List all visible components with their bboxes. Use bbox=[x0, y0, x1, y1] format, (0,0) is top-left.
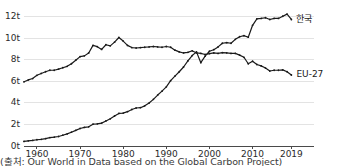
series-point bbox=[105, 120, 107, 122]
series-point bbox=[101, 122, 103, 124]
series-point bbox=[45, 71, 47, 73]
series-point bbox=[243, 35, 245, 37]
series-point bbox=[27, 140, 29, 142]
series-point bbox=[252, 24, 254, 26]
series-point bbox=[286, 13, 288, 15]
series-point bbox=[157, 46, 159, 48]
series-point bbox=[71, 63, 73, 65]
series-point bbox=[131, 109, 133, 111]
series-point bbox=[105, 44, 107, 46]
series-point bbox=[260, 18, 262, 20]
ytick-label-6t: 6t bbox=[11, 76, 21, 86]
series-point bbox=[170, 46, 172, 48]
series-point bbox=[40, 73, 42, 75]
series-point bbox=[183, 52, 185, 54]
series-point bbox=[226, 42, 228, 44]
series-point bbox=[282, 15, 284, 17]
series-point bbox=[161, 90, 163, 92]
chart-plot-area: 0t2t4t6t8t10t12t196019701980199020002010… bbox=[0, 0, 340, 166]
series-label-korea: 한국 bbox=[296, 14, 312, 24]
series-point bbox=[88, 126, 90, 128]
series-point bbox=[53, 69, 55, 71]
series-point bbox=[92, 45, 94, 47]
series-point bbox=[230, 42, 232, 44]
series-point bbox=[174, 49, 176, 51]
series-point bbox=[135, 47, 137, 49]
series-point bbox=[209, 50, 211, 52]
series-line-korea bbox=[24, 14, 291, 141]
series-point bbox=[239, 54, 241, 56]
series-point bbox=[178, 51, 180, 53]
series-point bbox=[269, 70, 271, 72]
series-point bbox=[79, 128, 81, 130]
series-point bbox=[92, 123, 94, 125]
series-point bbox=[122, 40, 124, 42]
series-point bbox=[200, 62, 202, 64]
series-point bbox=[286, 71, 288, 73]
series-point bbox=[282, 69, 284, 71]
series-point bbox=[187, 51, 189, 53]
series-point bbox=[196, 51, 198, 53]
ytick-label-0t: 0t bbox=[11, 141, 21, 151]
series-point bbox=[243, 56, 245, 58]
series-point bbox=[152, 98, 154, 100]
series-point bbox=[260, 65, 262, 67]
series-point bbox=[200, 52, 202, 54]
series-point bbox=[40, 138, 42, 140]
series-point bbox=[27, 79, 29, 81]
series-point bbox=[273, 18, 275, 20]
carbon-emissions-chart: 0t2t4t6t8t10t12t196019701980199020002010… bbox=[0, 0, 340, 166]
series-point bbox=[265, 67, 267, 69]
series-point bbox=[256, 18, 258, 20]
series-point bbox=[217, 46, 219, 48]
series-point bbox=[66, 65, 68, 67]
series-point bbox=[135, 107, 137, 109]
series-point bbox=[36, 139, 38, 141]
series-point bbox=[221, 42, 223, 44]
series-point bbox=[127, 45, 129, 47]
series-point bbox=[230, 52, 232, 54]
series-point bbox=[213, 49, 215, 51]
series-point bbox=[148, 46, 150, 48]
series-point bbox=[23, 141, 25, 143]
series-point bbox=[239, 36, 241, 38]
series-point bbox=[32, 78, 34, 80]
series-point bbox=[75, 129, 77, 131]
series-point bbox=[183, 66, 185, 68]
series-point bbox=[88, 52, 90, 54]
series-point bbox=[148, 102, 150, 104]
series-point bbox=[75, 59, 77, 61]
series-point bbox=[234, 38, 236, 40]
series-point bbox=[290, 74, 292, 76]
series-point bbox=[32, 139, 34, 141]
series-point bbox=[83, 55, 85, 57]
series-point bbox=[217, 52, 219, 54]
series-point bbox=[118, 37, 120, 39]
series-point bbox=[170, 80, 172, 82]
series-point bbox=[247, 36, 249, 38]
series-point bbox=[290, 19, 292, 21]
series-point bbox=[114, 41, 116, 43]
series-point bbox=[58, 136, 60, 138]
series-point bbox=[165, 46, 167, 48]
series-point bbox=[152, 46, 154, 48]
ytick-label-10t: 10t bbox=[5, 33, 20, 43]
series-point bbox=[45, 138, 47, 140]
series-point bbox=[36, 74, 38, 76]
series-point bbox=[62, 67, 64, 69]
series-point bbox=[252, 60, 254, 62]
series-point bbox=[144, 46, 146, 48]
series-point bbox=[187, 60, 189, 62]
series-point bbox=[101, 48, 103, 50]
series-point bbox=[127, 111, 129, 113]
series-point bbox=[204, 55, 206, 57]
series-point bbox=[157, 94, 159, 96]
series-point bbox=[234, 52, 236, 54]
ytick-label-2t: 2t bbox=[11, 119, 21, 129]
series-point bbox=[83, 127, 85, 129]
series-point bbox=[23, 81, 25, 83]
series-point bbox=[221, 52, 223, 54]
series-point bbox=[96, 123, 98, 125]
series-point bbox=[53, 136, 55, 138]
ytick-label-12t: 12t bbox=[5, 11, 20, 21]
